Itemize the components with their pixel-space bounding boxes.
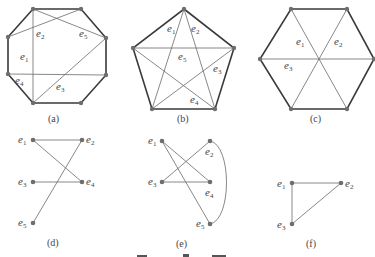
label-e1: e1 [20, 50, 29, 64]
edge-e2 [184, 9, 215, 109]
edge-e1-e4 [33, 140, 82, 182]
label-e5: e5 [178, 50, 187, 64]
label-e4: e4 [86, 175, 95, 189]
edge-e4 [8, 74, 106, 75]
figure-canvas: e2 e5 e1 e4 e3 (a) e1 e2 e5 e3 e4 (b) [0, 0, 375, 257]
caption-f: (f) [306, 238, 316, 250]
label-e1: e1 [277, 177, 286, 191]
caption-a: (a) [48, 113, 59, 125]
panel-b: e1 e2 e5 e3 e4 (b) [131, 7, 236, 125]
caption-c: (c) [310, 113, 321, 125]
label-e2: e2 [334, 35, 343, 49]
panel-e: e1 e2 e3 e4 e5 (e) [148, 134, 227, 250]
label-e1: e1 [148, 134, 157, 148]
label-e2: e2 [205, 145, 214, 159]
label-e2: e2 [86, 133, 95, 147]
label-e2: e2 [191, 22, 200, 36]
label-e1: e1 [18, 133, 27, 147]
edge-e1-e5 [162, 141, 210, 224]
label-e3: e3 [284, 59, 293, 73]
panel-f: e1 e2 e3 (f) [277, 177, 354, 250]
label-e5: e5 [79, 27, 88, 41]
edge-e4 [133, 48, 215, 109]
label-e4: e4 [15, 74, 24, 88]
label-e5: e5 [18, 216, 27, 230]
label-e3: e3 [18, 175, 27, 189]
panel-d: e1 e2 e3 e4 e5 (d) [18, 133, 95, 249]
label-e1: e1 [296, 35, 305, 49]
label-e4: e4 [205, 186, 214, 200]
label-e5: e5 [196, 217, 205, 231]
label-e2: e2 [36, 27, 45, 41]
label-e1: e1 [167, 22, 176, 36]
label-e4: e4 [190, 93, 199, 107]
caption-e: (e) [176, 238, 187, 250]
edge-e3 [33, 38, 106, 103]
label-e2: e2 [345, 177, 354, 191]
label-e3: e3 [213, 62, 222, 76]
label-e3: e3 [277, 218, 286, 232]
panel-c: e1 e2 e3 (c) [258, 7, 375, 125]
caption-b: (b) [177, 113, 189, 125]
label-e3: e3 [56, 80, 65, 94]
edge-e2-e5 [33, 140, 82, 223]
label-e3: e3 [148, 175, 157, 189]
caption-d: (d) [47, 237, 59, 249]
edge-e2-e3 [292, 183, 341, 224]
panel-a: e2 e5 e1 e4 e3 (a) [6, 7, 108, 125]
